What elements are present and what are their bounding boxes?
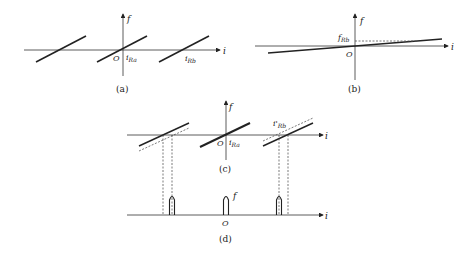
i-ra-label: iRa [229, 138, 240, 148]
characteristic-line-center [97, 36, 147, 62]
caption-d: (d) [219, 234, 232, 244]
characteristic-line-left [36, 36, 86, 62]
characteristic-line-right [159, 36, 209, 62]
caption-c: (c) [219, 164, 231, 174]
panel-a: f i O iRa iRb (a) [24, 14, 226, 94]
line-left-solid [139, 123, 189, 146]
f-rb-label: fRb [337, 33, 349, 43]
origin-label: O [346, 50, 353, 59]
x-axis-label: i [325, 211, 328, 221]
origin-label: O [222, 219, 229, 228]
y-axis-label: f [359, 16, 365, 26]
x-axis-label: i [223, 46, 226, 56]
origin-label: O [217, 139, 224, 148]
line-right-dashed [263, 118, 313, 141]
spike-center [224, 197, 229, 216]
y-axis-label: f [228, 102, 234, 112]
y-axis-label: f [232, 191, 238, 201]
x-axis-label: i [451, 42, 454, 52]
i-ra-label: iRa [126, 53, 137, 63]
panel-b: f i O fRb (b) [255, 14, 454, 94]
figure-canvas: f i O iRa iRb (a) f i O fRb (b) f i [0, 0, 470, 256]
caption-a: (a) [116, 84, 128, 94]
line-left-dashed [139, 128, 189, 151]
caption-b: (b) [348, 84, 361, 94]
y-axis-label: f [126, 14, 132, 24]
origin-label: O [113, 54, 120, 63]
x-axis-label: i [325, 131, 328, 141]
i-rb-prime-label: i'Rb [273, 119, 286, 129]
i-rb-label: iRb [185, 54, 196, 64]
panel-d: f i O (d) [127, 191, 328, 244]
